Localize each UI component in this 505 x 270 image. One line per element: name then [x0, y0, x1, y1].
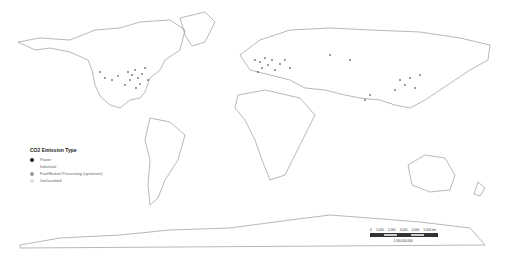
- new-zealand-outline: [474, 182, 485, 196]
- unclassified-symbol-icon: [30, 179, 34, 183]
- scale-ratio: 1:100,000,000: [370, 239, 436, 243]
- power-symbol-icon: [30, 158, 34, 162]
- scale-bar: 0 1,000 2,000 3,000 4,000 5,000 km 1:100…: [370, 228, 440, 243]
- emission-points-asia: [329, 54, 421, 101]
- greenland-outline: [180, 12, 215, 46]
- map-legend: CO2 Emission Type Power Industrial Fuel/…: [30, 147, 170, 184]
- legend-item-fuel-processing: Fuel/Biofuel Processing (upstream): [30, 170, 170, 177]
- legend-title: CO2 Emission Type: [30, 147, 170, 153]
- legend-item-unclassified: Unclassified: [30, 177, 170, 184]
- eurasia-outline: [240, 28, 490, 108]
- legend-item-power: Power: [30, 156, 170, 163]
- scale-ticks: 0 1,000 2,000 3,000 4,000 5,000 km: [370, 228, 436, 232]
- scale-bar-graphic: [370, 233, 438, 237]
- fuel-processing-symbol-icon: [30, 172, 34, 176]
- legend-item-industrial: Industrial: [30, 163, 170, 170]
- africa-outline: [235, 90, 315, 180]
- industrial-symbol-icon: [30, 165, 34, 169]
- north-america-outline: [18, 20, 185, 108]
- emission-points-europe: [254, 57, 291, 73]
- australia-outline: [408, 155, 455, 192]
- emission-points-north-america: [99, 67, 149, 89]
